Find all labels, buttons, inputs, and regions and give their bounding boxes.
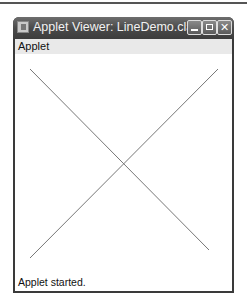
title-bar[interactable]: Applet Viewer: LineDemo.class ✕ <box>13 17 234 39</box>
page-top-rule <box>0 2 247 4</box>
applet-viewer-window: Applet Viewer: LineDemo.class ✕ Applet A… <box>13 17 234 293</box>
menu-applet[interactable]: Applet <box>18 40 49 52</box>
java-app-icon[interactable] <box>17 21 29 33</box>
close-icon: ✕ <box>220 21 229 33</box>
minimize-icon <box>191 29 198 31</box>
maximize-button[interactable] <box>202 20 217 35</box>
minimize-button[interactable] <box>187 20 202 35</box>
maximize-icon <box>206 24 213 30</box>
diagonal-line-1 <box>30 69 209 250</box>
menu-bar: Applet <box>15 39 232 54</box>
window-title: Applet Viewer: LineDemo.class <box>33 20 206 34</box>
drawing-canvas <box>15 54 232 291</box>
close-button[interactable]: ✕ <box>217 20 232 35</box>
status-text: Applet started. <box>18 276 86 288</box>
applet-area: Applet started. <box>15 54 232 291</box>
